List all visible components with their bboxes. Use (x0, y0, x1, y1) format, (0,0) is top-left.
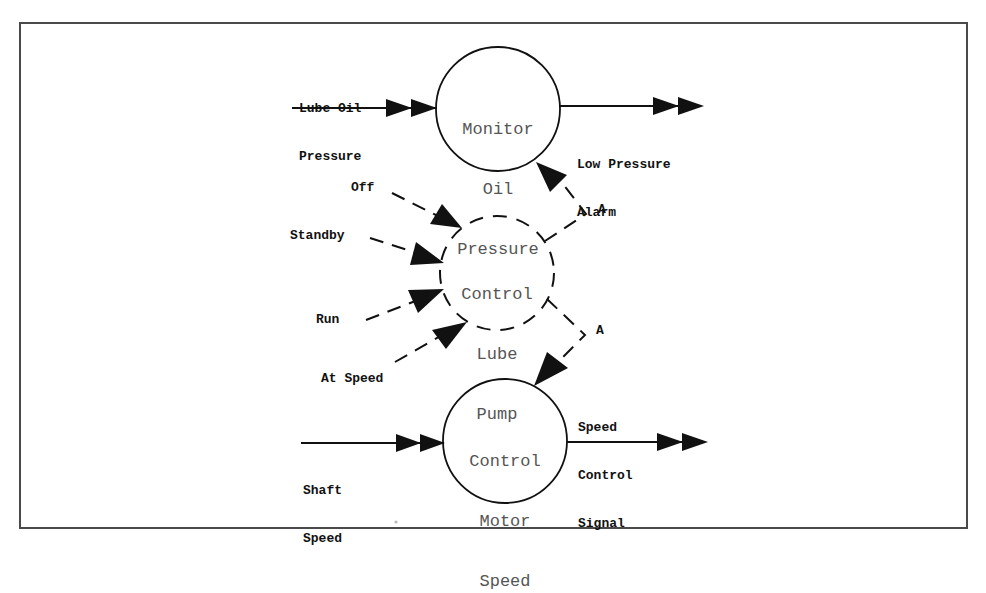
process-monitor-line-1: Monitor (448, 120, 548, 140)
flow-standby-arrow (370, 238, 444, 265)
label-low-pressure-alarm-line-2: Alarm (577, 205, 671, 221)
flow-low-pressure-alarm-arrow (560, 97, 704, 115)
label-speed-control-signal: Speed Control Signal (578, 388, 633, 564)
scan-artifact-dot (394, 520, 397, 523)
label-at-speed: At Speed (321, 371, 383, 387)
process-lube-pump-line-1: Control (447, 285, 547, 305)
process-monitor-line-2: Oil (448, 180, 548, 200)
label-lube-oil-pressure-line-1: Lube Oil (299, 101, 361, 117)
label-standby: Standby (290, 228, 345, 244)
label-shaft-speed-line-2: Speed (303, 531, 342, 547)
label-speed-control-signal-line-1: Speed (578, 420, 633, 436)
label-low-pressure-alarm-line-1: Low Pressure (577, 157, 671, 173)
label-shaft-speed: Shaft Speed (303, 451, 342, 579)
label-activate-monitor: A (598, 202, 606, 218)
double-arrowhead-icon (386, 99, 412, 117)
label-activate-motor: A (596, 323, 604, 339)
label-run: Run (316, 312, 339, 328)
process-motor-line-3: Speed (455, 572, 555, 592)
label-speed-control-signal-line-3: Signal (578, 516, 633, 532)
process-motor-line-1: Control (455, 452, 555, 472)
process-motor-title: Control Motor Speed (455, 412, 555, 593)
flow-run-arrow (366, 289, 444, 320)
process-lube-pump-line-2: Lube (447, 345, 547, 365)
label-low-pressure-alarm: Low Pressure Alarm (577, 125, 671, 253)
label-speed-control-signal-line-2: Control (578, 468, 633, 484)
label-lube-oil-pressure-line-2: Pressure (299, 149, 361, 165)
label-shaft-speed-line-1: Shaft (303, 483, 342, 499)
label-off: Off (351, 180, 374, 196)
process-motor-line-2: Motor (455, 512, 555, 532)
flow-shaft-speed-arrow (301, 434, 445, 452)
label-lube-oil-pressure: Lube Oil Pressure (299, 69, 361, 197)
